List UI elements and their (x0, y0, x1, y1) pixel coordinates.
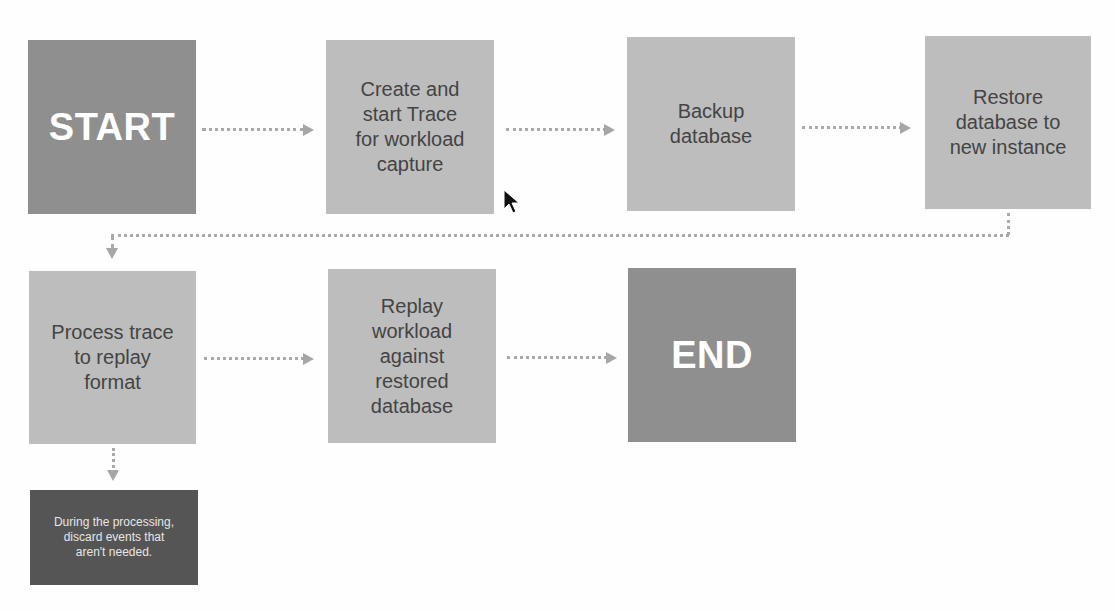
backup-database-label: Backup database (670, 99, 752, 149)
create-trace-node: Create and start Trace for workload capt… (326, 40, 494, 214)
create-trace-label: Create and start Trace for workload capt… (356, 77, 465, 177)
replay-workload-label: Replay workload against restored databas… (371, 294, 453, 419)
process-trace-label: Process trace to replay format (51, 320, 173, 395)
note-discard-events: During the processing, discard events th… (30, 490, 198, 585)
mouse-pointer-icon (503, 189, 523, 215)
arrow-right-icon (604, 124, 615, 136)
replay-workload-node: Replay workload against restored databas… (328, 269, 496, 443)
start-label: START (49, 106, 175, 149)
end-label: END (671, 334, 753, 377)
backup-database-node: Backup database (627, 37, 795, 211)
arrow-right-icon (303, 353, 314, 365)
start-node: START (28, 40, 196, 214)
arrow-right-icon (900, 122, 911, 134)
note-discard-label: During the processing, discard events th… (54, 515, 174, 560)
process-trace-node: Process trace to replay format (29, 271, 196, 444)
arrow-down-icon (107, 470, 119, 481)
restore-database-label: Restore database to new instance (950, 85, 1067, 160)
arrow-right-icon (303, 124, 314, 136)
arrow-right-icon (606, 352, 617, 364)
arrow-down-icon (106, 248, 118, 259)
restore-database-node: Restore database to new instance (925, 36, 1091, 209)
end-node: END (628, 268, 796, 442)
